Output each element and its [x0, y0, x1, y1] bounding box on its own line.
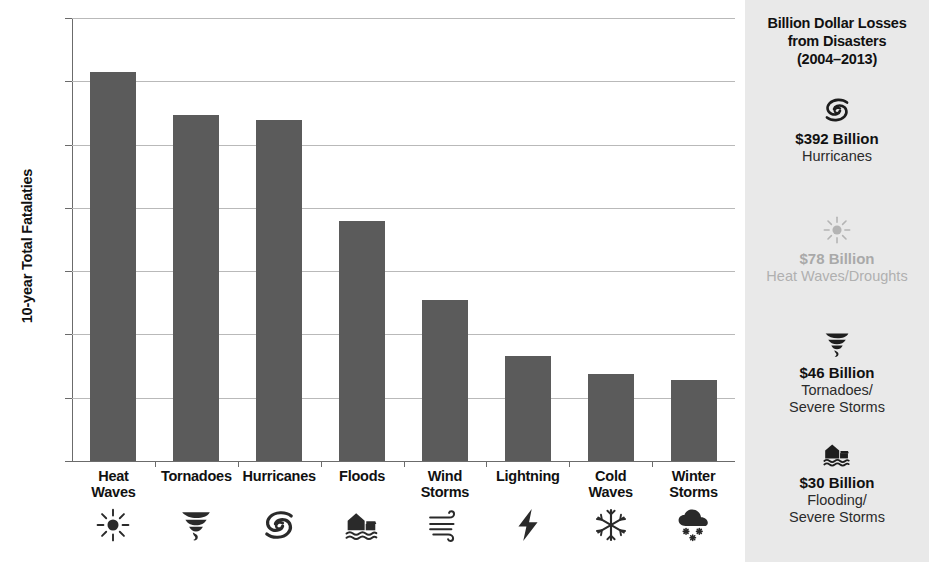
gridline: [72, 208, 735, 209]
side-panel-title-line: (2004–2013): [745, 50, 929, 68]
x-tick-mark: [238, 461, 239, 467]
side-panel-item-category-line: Severe Storms: [745, 509, 929, 526]
y-tick-mark: [65, 461, 72, 462]
side-panel-item-amount: $78 Billion: [745, 250, 929, 268]
bar: [671, 380, 717, 461]
x-tick-label: WinterStorms: [652, 468, 735, 500]
y-axis-line: [72, 18, 73, 462]
x-tick-label: Tornadoes: [155, 468, 238, 484]
side-panel: Billion Dollar Lossesfrom Disasters(2004…: [745, 0, 929, 562]
side-panel-item: $46 BillionTornadoes/Severe Storms: [745, 330, 929, 416]
gridline: [72, 145, 735, 146]
x-tick-label: WindStorms: [404, 468, 487, 500]
y-tick-mark: [65, 145, 72, 146]
side-panel-item-category-line: Flooding/: [745, 492, 929, 509]
bar: [505, 356, 551, 461]
side-panel-item-category: Hurricanes: [745, 148, 929, 165]
wind-icon: [404, 508, 487, 542]
x-tick-label-line: Tornadoes: [155, 468, 238, 484]
bar: [90, 72, 136, 461]
side-panel-item: $392 BillionHurricanes: [745, 96, 929, 165]
x-tick-label-line: Cold: [569, 468, 652, 484]
y-tick-mark: [65, 334, 72, 335]
gridline: [72, 398, 735, 399]
x-tick-mark: [155, 461, 156, 467]
x-tick-label-line: Lightning: [486, 468, 569, 484]
x-tick-label: Floods: [321, 468, 404, 484]
x-tick-label: Lightning: [486, 468, 569, 484]
lightning-bolt-icon: [486, 508, 569, 542]
chart-figure: 10-year Total Fatalaties 020040060080010…: [0, 0, 929, 562]
x-tick-label-line: Storms: [404, 484, 487, 500]
bar: [256, 120, 302, 461]
x-tick-mark: [321, 461, 322, 467]
bar: [339, 221, 385, 461]
x-tick-label: Hurricanes: [238, 468, 321, 484]
sun-icon: [72, 508, 155, 542]
snow-cloud-icon: [652, 508, 735, 542]
sun-icon: [745, 216, 929, 246]
side-panel-item-category-line: Severe Storms: [745, 399, 929, 416]
x-tick-mark: [404, 461, 405, 467]
side-panel-item-amount: $46 Billion: [745, 364, 929, 382]
y-tick-mark: [65, 18, 72, 19]
side-panel-item-amount: $30 Billion: [745, 474, 929, 492]
side-panel-title-line: from Disasters: [745, 32, 929, 50]
gridline: [72, 334, 735, 335]
y-tick-mark: [65, 81, 72, 82]
gridline: [72, 271, 735, 272]
plot-area: 0200400600800100012001400: [72, 18, 735, 462]
x-tick-label-line: Hurricanes: [238, 468, 321, 484]
x-tick-label-line: Heat: [72, 468, 155, 484]
side-panel-item-category-line: Tornadoes/: [745, 382, 929, 399]
side-panel-item-category-line: Heat Waves/Droughts: [745, 268, 929, 285]
x-tick-mark: [569, 461, 570, 467]
x-tick-label-line: Wind: [404, 468, 487, 484]
y-tick-mark: [65, 398, 72, 399]
x-tick-label: ColdWaves: [569, 468, 652, 500]
flood-house-icon: [321, 508, 404, 542]
bar: [422, 300, 468, 461]
hurricane-icon: [238, 508, 321, 542]
x-tick-label-line: Storms: [652, 484, 735, 500]
side-panel-item-amount: $392 Billion: [745, 130, 929, 148]
side-panel-item-category: Flooding/Severe Storms: [745, 492, 929, 526]
tornado-icon: [155, 508, 238, 542]
x-tick-label-line: Waves: [72, 484, 155, 500]
snowflake-icon: [569, 508, 652, 542]
y-axis-title: 10-year Total Fatalaties: [19, 131, 35, 361]
gridline: [72, 81, 735, 82]
y-tick-mark: [65, 208, 72, 209]
y-tick-mark: [65, 271, 72, 272]
side-panel-item-category: Tornadoes/Severe Storms: [745, 382, 929, 416]
x-tick-label-line: Winter: [652, 468, 735, 484]
x-tick-mark: [486, 461, 487, 467]
bar: [588, 374, 634, 461]
gridline: [72, 18, 735, 19]
side-panel-title: Billion Dollar Lossesfrom Disasters(2004…: [745, 14, 929, 68]
side-panel-item: $30 BillionFlooding/Severe Storms: [745, 440, 929, 526]
x-tick-mark: [652, 461, 653, 467]
tornado-icon: [745, 330, 929, 360]
x-tick-label-line: Floods: [321, 468, 404, 484]
side-panel-item-category: Heat Waves/Droughts: [745, 268, 929, 285]
hurricane-icon: [745, 96, 929, 126]
x-tick-label-line: Waves: [569, 484, 652, 500]
side-panel-title-line: Billion Dollar Losses: [745, 14, 929, 32]
flood-house-icon: [745, 440, 929, 470]
x-tick-label: HeatWaves: [72, 468, 155, 500]
side-panel-item-category-line: Hurricanes: [745, 148, 929, 165]
side-panel-item: $78 BillionHeat Waves/Droughts: [745, 216, 929, 285]
bar: [173, 115, 219, 461]
